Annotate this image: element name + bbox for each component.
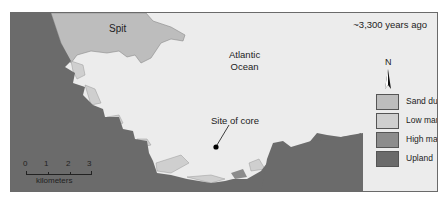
scale-unit-label: kilometers xyxy=(36,176,72,185)
scale-tick-3: 3 xyxy=(87,159,91,168)
legend-label: Upland xyxy=(406,153,433,163)
legend-swatch-upland xyxy=(376,151,399,167)
legend-swatch-sand-dunes xyxy=(376,94,399,110)
core-site-label: Site of core xyxy=(211,115,259,126)
legend-label: Sand dunes xyxy=(406,96,438,106)
scale-bar-tick xyxy=(70,172,71,175)
scale-tick-1: 1 xyxy=(44,159,48,168)
scale-tick-2: 2 xyxy=(66,159,70,168)
legend-swatch-low-marsh xyxy=(376,113,399,129)
core-site-marker xyxy=(213,144,218,149)
north-arrow: N xyxy=(379,57,399,97)
ocean-label: Atlantic Ocean xyxy=(229,49,260,73)
legend-label: High marsh xyxy=(406,134,438,144)
legend-swatch-high-marsh xyxy=(376,132,399,148)
time-label: ~3,300 years ago xyxy=(353,19,427,30)
legend-label: Low marsh xyxy=(406,115,438,125)
ocean-label-line1: Atlantic xyxy=(229,49,260,61)
spit-label: Spit xyxy=(109,23,126,34)
scale-bar-line xyxy=(26,171,92,175)
scale-bar: 0 1 2 3 kilometers xyxy=(23,159,103,189)
scale-tick-0: 0 xyxy=(23,159,27,168)
north-label: N xyxy=(385,57,392,67)
scale-bar-tick xyxy=(48,172,49,175)
ocean-label-line2: Ocean xyxy=(229,61,260,73)
map-frame: ~3,300 years ago Spit Atlantic Ocean Sit… xyxy=(10,12,438,192)
